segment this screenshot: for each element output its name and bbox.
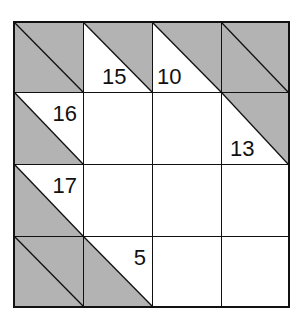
down-clue: 10 [157, 66, 181, 88]
entry-cell-r2c1[interactable] [84, 165, 153, 237]
kakuro-grid: 15 10 16 13 17 5 [13, 21, 290, 308]
entry-cell-r2c2[interactable] [153, 165, 222, 237]
down-clue: 15 [102, 66, 126, 88]
diagonal-block-icon [15, 23, 83, 92]
clue-cell-r3c1: 5 [84, 237, 153, 306]
entry-cell-r2c3[interactable] [222, 165, 288, 237]
across-clue: 16 [53, 103, 77, 125]
block-cell-r3c0 [15, 237, 84, 306]
across-clue: 17 [53, 175, 77, 197]
entry-cell-r1c2[interactable] [153, 93, 222, 165]
clue-cell-r0c2: 10 [153, 23, 222, 93]
clue-cell-r0c1: 15 [84, 23, 153, 93]
block-cell-r0c0 [15, 23, 84, 93]
block-cell-r0c3 [222, 23, 288, 93]
entry-cell-r3c2[interactable] [153, 237, 222, 306]
clue-cell-r1c0: 16 [15, 93, 84, 165]
entry-cell-r1c1[interactable] [84, 93, 153, 165]
diagonal-block-icon [15, 237, 83, 306]
clue-cell-r2c0: 17 [15, 165, 84, 237]
clue-cell-r1c3: 13 [222, 93, 288, 165]
down-clue: 13 [230, 138, 254, 160]
across-clue: 5 [134, 247, 146, 269]
diagonal-block-icon [222, 23, 288, 92]
entry-cell-r3c3[interactable] [222, 237, 288, 306]
